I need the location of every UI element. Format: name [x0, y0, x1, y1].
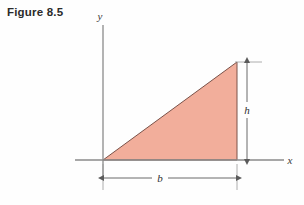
height-label: h	[244, 104, 250, 116]
triangle-shape	[103, 62, 237, 160]
figure-container: Figure 8.5 y x h	[0, 0, 304, 205]
base-label: b	[157, 172, 163, 184]
x-axis-label: x	[287, 154, 293, 166]
y-axis-label: y	[97, 10, 103, 22]
figure-diagram: y x h b	[0, 0, 304, 205]
